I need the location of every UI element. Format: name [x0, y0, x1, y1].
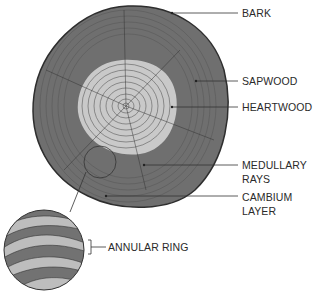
label-cambium: CAMBIUM: [242, 192, 292, 203]
label-medullary: MEDULLARY: [242, 160, 307, 171]
label-rays: RAYS: [242, 174, 270, 185]
label-sapwood: SAPWOOD: [242, 76, 298, 87]
label-bark: BARK: [242, 8, 271, 19]
label-annular-ring: ANNULAR RING: [108, 242, 189, 253]
label-heartwood: HEARTWOOD: [242, 102, 312, 113]
label-layer: LAYER: [242, 206, 276, 217]
